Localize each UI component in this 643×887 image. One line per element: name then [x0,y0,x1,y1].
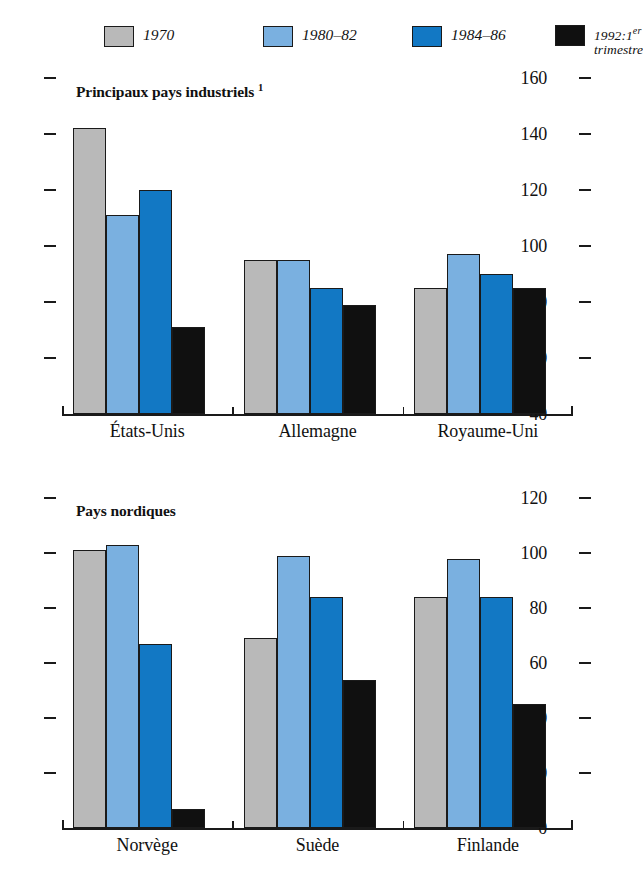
legend-1970-swatch [104,26,134,47]
y-tick-label-60: 60 [529,654,547,672]
bar-su-de-1992-1er-trimestre [343,680,376,829]
x-axis-line [62,414,573,416]
bar-allemagne-1970 [244,260,277,414]
y-tick-left-80 [44,607,56,609]
bar-finlande-1992-1er-trimestre [513,704,546,828]
y-tick-label-120: 120 [521,489,547,507]
x-axis-label-norv-ge: Norvège [117,835,178,856]
y-tick-left-60 [44,662,56,664]
bar-norv-ge-1992-1er-trimestre [172,809,205,828]
y-tick-label-100: 100 [521,544,547,562]
bar--tats-unis-1984-86 [139,190,172,414]
y-tick-left-80 [44,301,56,303]
bar-finlande-1980-82 [447,559,480,829]
group-separator-tick [403,407,405,414]
y-tick-left-40 [44,717,56,719]
y-tick-left-120 [44,189,56,191]
axis-end-stub-left [62,406,64,415]
x-axis-label--tats-unis: États-Unis [110,421,185,442]
bar-norv-ge-1984-86 [139,644,172,828]
legend-1970: 1970 [104,25,174,47]
y-tick-right-80 [579,301,591,303]
bar-su-de-1970 [244,638,277,828]
bar--tats-unis-1980-82 [106,215,139,414]
bar-allemagne-1992-1er-trimestre [343,305,376,414]
y-tick-left-120 [44,497,56,499]
chart1-plot-area: 406080100120140160États-UnisAllemagneRoy… [62,70,573,445]
y-tick-right-120 [579,189,591,191]
y-tick-right-20 [579,772,591,774]
bar-su-de-1984-86 [310,597,343,828]
y-tick-right-140 [579,133,591,135]
axis-end-stub-right [571,820,573,829]
legend-1984-86: 1984–86 [412,25,506,47]
y-tick-right-80 [579,607,591,609]
y-tick-right-100 [579,245,591,247]
x-axis-label-finlande: Finlande [457,835,519,856]
bar-su-de-1980-82 [277,556,310,828]
y-tick-right-40 [579,717,591,719]
legend-1992: 1992:1ertrimestre [555,24,643,58]
bar-royaume-uni-1992-1er-trimestre [513,288,546,414]
chart-pays-nordiques: Pays nordiques 020406080100120NorvègeSuè… [0,490,633,887]
y-tick-left-100 [44,245,56,247]
y-tick-left-20 [44,772,56,774]
y-tick-label-120: 120 [521,181,547,199]
legend-1992-swatch [555,25,585,46]
legend-1970-label: 1970 [143,25,174,42]
y-tick-left-160 [44,77,56,79]
legend-1980-82: 1980–82 [263,25,357,47]
axis-end-stub-right [571,406,573,415]
bar-norv-ge-1970 [73,550,106,828]
group-separator-tick [232,407,234,414]
bar--tats-unis-1970 [73,128,106,414]
x-axis-line [62,828,573,830]
x-axis-label-allemagne: Allemagne [278,421,356,442]
legend-1992-label: 1992:1ertrimestre [594,24,643,58]
y-tick-label-160: 160 [521,69,547,87]
y-tick-right-60 [579,662,591,664]
y-tick-right-120 [579,497,591,499]
y-tick-right-160 [579,77,591,79]
y-tick-left-100 [44,552,56,554]
chart2-plot-area: 020406080100120NorvègeSuèdeFinlande [62,490,573,887]
y-tick-right-60 [579,357,591,359]
bar-royaume-uni-1980-82 [447,254,480,414]
x-axis-label-royaume-uni: Royaume-Uni [437,421,538,442]
bar-royaume-uni-1970 [414,288,447,414]
chart-principaux-pays-industriels: Principaux pays industriels 1 4060801001… [0,70,633,445]
bar-norv-ge-1980-82 [106,545,139,828]
legend-1984-86-label: 1984–86 [451,25,506,42]
legend-1984-86-swatch [412,26,442,47]
chart-legend: 19701980–821984–861992:1ertrimestre [0,24,633,70]
y-tick-left-140 [44,133,56,135]
bar-royaume-uni-1984-86 [480,274,513,414]
y-tick-label-80: 80 [529,599,547,617]
group-separator-tick [403,821,405,828]
group-separator-tick [232,821,234,828]
bar--tats-unis-1992-1er-trimestre [172,327,205,414]
bar-allemagne-1980-82 [277,260,310,414]
bar-allemagne-1984-86 [310,288,343,414]
bar-finlande-1970 [414,597,447,828]
y-tick-right-100 [579,552,591,554]
legend-1980-82-label: 1980–82 [302,25,357,42]
y-tick-left-60 [44,357,56,359]
x-axis-label-su-de: Suède [296,835,340,856]
axis-end-stub-left [62,820,64,829]
bar-finlande-1984-86 [480,597,513,828]
legend-1980-82-swatch [263,26,293,47]
y-tick-label-100: 100 [521,237,547,255]
y-tick-label-140: 140 [521,125,547,143]
